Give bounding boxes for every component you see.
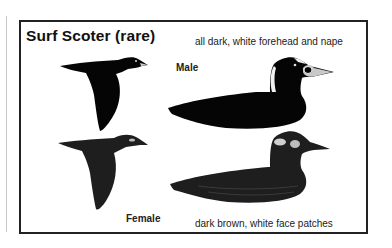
female-label: Female bbox=[126, 213, 160, 224]
male-swimming-bird-illustration bbox=[166, 56, 336, 134]
female-description: dark brown, white face patches bbox=[195, 218, 333, 229]
plate-title: Surf Scoter (rare) bbox=[26, 27, 155, 45]
male-description: all dark, white forehead and nape bbox=[195, 36, 343, 47]
male-flying-bird-illustration bbox=[58, 55, 150, 133]
female-flying-bird-illustration bbox=[56, 133, 148, 211]
female-swimming-bird-illustration bbox=[168, 130, 338, 208]
side-rule bbox=[6, 16, 7, 232]
